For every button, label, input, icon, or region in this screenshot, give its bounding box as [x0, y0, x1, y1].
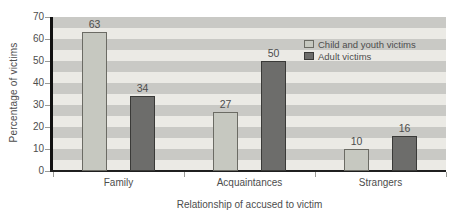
bar-family-child-youth — [82, 32, 107, 171]
bar-strangers-child-youth — [344, 149, 369, 171]
y-tick-label: 50 — [18, 55, 44, 66]
y-tick-mark — [45, 105, 50, 106]
category-label-strangers: Strangers — [315, 177, 446, 188]
y-tick-mark — [45, 171, 50, 172]
y-tick-label: 10 — [18, 143, 44, 154]
y-axis-title: Percentage of victims — [8, 23, 19, 163]
y-tick-mark — [45, 39, 50, 40]
bar-family-adult — [130, 96, 155, 171]
bar-strangers-adult — [392, 136, 417, 171]
y-tick-mark — [45, 17, 50, 18]
category-label-acquaintances: Acquaintances — [184, 177, 315, 188]
y-tick-label: 30 — [18, 99, 44, 110]
category-label-family: Family — [53, 177, 184, 188]
legend-label-adult: Adult victims — [318, 51, 371, 62]
bar-acquaintances-adult — [261, 61, 286, 171]
legend-row-adult: Adult victims — [304, 50, 416, 62]
bar-value-label: 10 — [342, 135, 372, 147]
bar-value-label: 34 — [128, 82, 158, 94]
y-tick-label: 20 — [18, 121, 44, 132]
y-tick-mark — [45, 83, 50, 84]
legend-label-child-youth: Child and youth victims — [318, 39, 416, 50]
y-tick-label: 0 — [18, 165, 44, 176]
bar-value-label: 63 — [80, 18, 110, 30]
y-tick-label: 70 — [18, 11, 44, 22]
y-tick-mark — [45, 149, 50, 150]
y-axis-line — [50, 17, 53, 172]
y-tick-mark — [45, 61, 50, 62]
legend-swatch-child-youth — [304, 40, 314, 48]
bar-acquaintances-child-youth — [213, 112, 238, 171]
bar-value-label: 50 — [259, 47, 289, 59]
bar-chart-figure: Percentage of victims 010203040506070 63… — [0, 0, 451, 218]
bar-value-label: 27 — [211, 98, 241, 110]
y-tick-label: 40 — [18, 77, 44, 88]
legend: Child and youth victims Adult victims — [304, 38, 416, 62]
bar-value-label: 16 — [390, 122, 420, 134]
legend-swatch-adult — [304, 52, 314, 60]
legend-row-child-youth: Child and youth victims — [304, 38, 416, 50]
x-axis-line — [50, 170, 446, 172]
y-tick-label: 60 — [18, 33, 44, 44]
x-axis-title: Relationship of accused to victim — [53, 199, 446, 210]
x-tick-mark — [446, 172, 447, 177]
y-tick-mark — [45, 127, 50, 128]
